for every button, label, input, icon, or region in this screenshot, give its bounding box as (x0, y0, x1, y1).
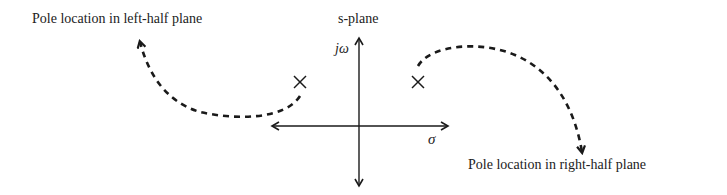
left-pole-marker (294, 76, 306, 88)
right-half-plane-label: Pole location in right-half plane (468, 157, 646, 173)
left-half-plane-label: Pole location in left-half plane (32, 11, 202, 27)
left-pole-path-arrow (140, 42, 300, 117)
j-omega-label: jω (335, 41, 349, 57)
right-pole-marker (412, 76, 424, 88)
right-pole-path-arrow (418, 46, 582, 152)
sigma-label: σ (428, 131, 435, 147)
s-plane-title: s-plane (338, 11, 378, 27)
